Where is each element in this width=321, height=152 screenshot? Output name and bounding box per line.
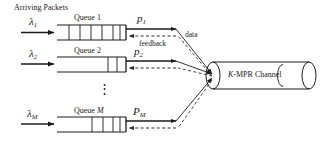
arrival-rate-label-m: λM xyxy=(27,108,37,121)
arrival-rate-label-1: λ1 xyxy=(29,16,37,29)
queue-m-label-text: Queue M xyxy=(74,106,104,115)
queue-1-label: Queue 1 xyxy=(74,14,101,22)
queue-m-label: Queue M xyxy=(74,107,104,115)
queue-1-group xyxy=(21,25,212,76)
service-prob-label-1: p1 xyxy=(137,13,146,26)
queue-2-group xyxy=(21,57,212,76)
queue-m-group xyxy=(21,78,212,132)
data-link-m xyxy=(176,78,212,121)
p-subscript-1: 1 xyxy=(143,18,146,25)
queue-m-cells xyxy=(92,117,120,132)
lambda-subscript-m: M xyxy=(32,113,38,120)
p-subscript-2: 2 xyxy=(140,51,143,58)
queue-2-label: Queue 2 xyxy=(74,47,101,55)
diagram-canvas: Arriving Packets λ1 λ2 λM Queue 1 Queue … xyxy=(0,0,321,152)
p-glyph-m: P xyxy=(133,105,140,117)
queue-2-cells xyxy=(108,57,117,72)
service-prob-label-m: PM xyxy=(133,106,145,119)
queue-1-cells xyxy=(69,25,120,40)
feedback-label: feedback xyxy=(139,40,166,48)
channel-label: K-MPR Channel xyxy=(228,71,282,79)
lambda-subscript-1: 1 xyxy=(34,21,37,28)
queue-ellipsis: ⋮ xyxy=(98,82,111,95)
lambda-subscript-2: 2 xyxy=(34,53,37,60)
feedback-link-m xyxy=(178,80,212,128)
arrival-rate-label-2: λ2 xyxy=(29,48,37,61)
arriving-packets-label: Arriving Packets xyxy=(14,4,68,12)
data-label: data xyxy=(185,31,198,39)
p-subscript-m: M xyxy=(140,111,146,118)
